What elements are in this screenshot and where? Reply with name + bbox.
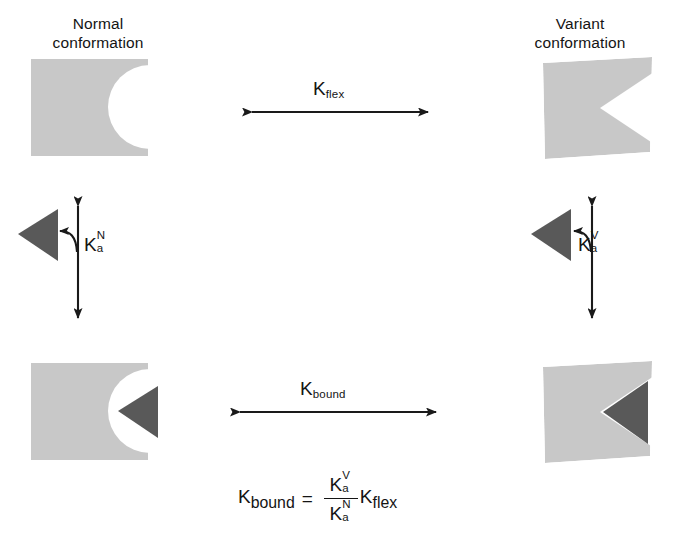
equation-equals-sign: = (302, 488, 313, 510)
ka-variant-base: K (578, 234, 591, 255)
equation-multiplier-term: Kflex (360, 486, 397, 512)
normal-conformation-bound-shape (31, 363, 158, 460)
equation-denominator: KNa (327, 501, 354, 525)
equation-denominator-subscript: a (342, 511, 348, 524)
equation-left-term: Kbound (238, 486, 295, 512)
equation-numerator-superscript: V (342, 469, 350, 482)
variant-conformation-bound-shape (543, 361, 652, 463)
equation-denominator-base: K (329, 503, 342, 524)
equation-multiplier-base: K (360, 486, 373, 507)
cycle-equation: Kbound = KVa KNa Kflex (238, 472, 397, 525)
k-bound-label: Kbound (300, 378, 346, 400)
variant-conformation-unbound-shape (543, 57, 652, 159)
k-flex-base: K (313, 78, 326, 99)
equation-left-subscript: bound (251, 494, 295, 511)
equation-fraction-bar (324, 498, 358, 500)
ligand-triangle-free-variant (531, 209, 571, 261)
equation-numerator-base: K (329, 474, 342, 495)
ka-variant-label: KVa (578, 232, 601, 256)
k-bound-base: K (300, 378, 313, 399)
equation-numerator: KVa (327, 472, 354, 496)
ka-normal-subscript: a (97, 242, 103, 254)
ka-normal-superscript: N (97, 229, 105, 241)
equation-multiplier-subscript: flex (373, 494, 398, 511)
equation-left-base: K (238, 486, 251, 507)
equation-denominator-superscript: N (342, 498, 350, 511)
ligand-binding-curve-normal (60, 231, 77, 252)
k-flex-label: Kflex (313, 78, 344, 100)
ka-variant-superscript: V (591, 229, 599, 241)
k-flex-subscript: flex (326, 88, 345, 100)
ka-variant-subscript: a (591, 242, 597, 254)
ka-normal-label: KNa (84, 232, 107, 256)
k-bound-subscript: bound (313, 388, 346, 400)
ka-normal-base: K (84, 234, 97, 255)
equation-numerator-subscript: a (342, 482, 348, 495)
ligand-triangle-free-normal (18, 209, 58, 261)
figure-canvas: Normal conformation Variant conformation (0, 0, 678, 547)
equation-fraction: KVa KNa (324, 472, 358, 525)
normal-conformation-unbound-shape (31, 59, 148, 156)
